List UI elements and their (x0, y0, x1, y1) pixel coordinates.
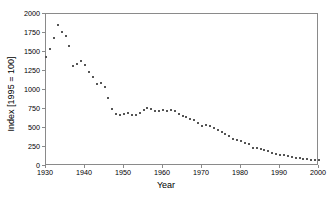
data-point (146, 107, 148, 109)
data-point (193, 119, 195, 121)
x-tick-label: 1990 (271, 168, 287, 177)
data-point (221, 131, 223, 133)
data-point (291, 156, 293, 158)
data-point (260, 148, 262, 150)
data-point (143, 109, 145, 111)
y-axis-title: Index [1995 = 100] (6, 29, 16, 159)
data-point (287, 155, 289, 157)
x-tick-label: 1970 (193, 168, 209, 177)
data-point (263, 149, 265, 151)
x-tick-label: 2000 (310, 168, 326, 177)
x-tick-label: 1940 (76, 168, 92, 177)
data-point (123, 113, 125, 115)
data-point (104, 86, 106, 88)
data-point (162, 109, 164, 111)
data-point (275, 153, 277, 155)
x-tick-label: 1960 (154, 168, 170, 177)
data-point (318, 159, 320, 161)
data-point (224, 133, 226, 135)
x-tick-label: 1950 (115, 168, 131, 177)
data-point (57, 24, 59, 26)
data-point (68, 45, 70, 47)
data-point (314, 159, 316, 161)
data-point (299, 157, 301, 159)
data-point (228, 135, 230, 137)
data-point (96, 83, 98, 85)
data-point (119, 114, 121, 116)
data-point (80, 60, 82, 62)
y-tick-mark (42, 165, 45, 166)
data-point (189, 118, 191, 120)
data-point (72, 65, 74, 67)
data-point (45, 56, 47, 58)
data-point (256, 147, 258, 149)
x-tick-label: 1980 (232, 168, 248, 177)
data-point (115, 113, 117, 115)
y-tick-label: 0 (2, 161, 40, 170)
data-point (267, 150, 269, 152)
data-point (61, 31, 63, 33)
data-point (111, 108, 113, 110)
data-point (271, 152, 273, 154)
data-point (252, 147, 254, 149)
data-point (244, 142, 246, 144)
data-point (310, 159, 312, 161)
data-point (295, 157, 297, 159)
data-point (154, 110, 156, 112)
data-point (135, 114, 137, 116)
data-point (76, 63, 78, 65)
scatter-chart: 0250500750100012501500175020001930194019… (0, 0, 332, 197)
data-point (248, 143, 250, 145)
data-point (209, 125, 211, 127)
plot-area (45, 13, 318, 165)
y-tick-label: 2000 (2, 9, 40, 18)
data-point (49, 48, 51, 50)
data-point (107, 97, 109, 99)
x-tick-label: 1930 (37, 168, 53, 177)
data-point (170, 109, 172, 111)
data-point (131, 114, 133, 116)
data-point (197, 122, 199, 124)
data-point (127, 112, 129, 114)
data-point (158, 110, 160, 112)
data-point (139, 112, 141, 114)
data-point (150, 108, 152, 110)
data-point (100, 82, 102, 84)
data-point (232, 138, 234, 140)
data-point (65, 35, 67, 37)
data-point (240, 140, 242, 142)
data-point (185, 116, 187, 118)
data-point (88, 71, 90, 73)
data-point (236, 139, 238, 141)
data-point (182, 115, 184, 117)
data-point (166, 110, 168, 112)
data-point (213, 127, 215, 129)
data-point (302, 158, 304, 160)
data-point (279, 154, 281, 156)
data-point (205, 124, 207, 126)
data-points-layer (46, 14, 319, 166)
data-point (306, 158, 308, 160)
data-point (92, 76, 94, 78)
data-point (174, 110, 176, 112)
data-point (217, 129, 219, 131)
data-point (201, 125, 203, 127)
data-point (53, 37, 55, 39)
data-point (178, 113, 180, 115)
x-axis-title: Year (0, 180, 332, 190)
data-point (84, 64, 86, 66)
data-point (283, 154, 285, 156)
